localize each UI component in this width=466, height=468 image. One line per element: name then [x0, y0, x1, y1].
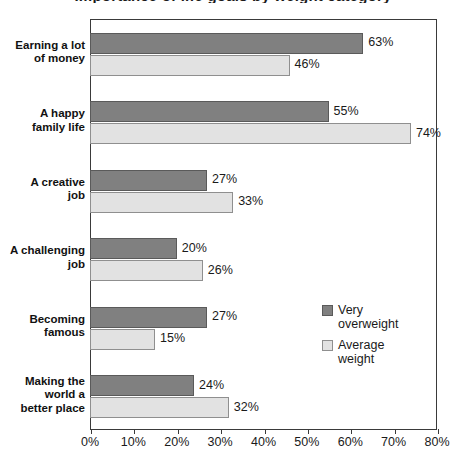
category-label-line: family life — [0, 121, 85, 135]
x-axis-tick-label: 30% — [208, 435, 233, 449]
legend-label-line1: Very — [338, 303, 363, 317]
legend-label-very-overweight: Very overweight — [338, 303, 398, 331]
category-label-line: better place — [0, 402, 85, 416]
bar-value-label: 15% — [160, 331, 185, 345]
bar-value-label: 26% — [208, 263, 233, 277]
bar-very-overweight-5[interactable] — [90, 375, 194, 396]
bar-value-label: 74% — [416, 126, 441, 140]
legend-swatch-icon-very-overweight — [322, 305, 333, 316]
legend-label-line1: Average — [338, 338, 384, 352]
legend-item-average-weight[interactable]: Average weight — [322, 338, 417, 366]
bar-very-overweight-0[interactable] — [90, 33, 363, 54]
x-axis-tick-label: 80% — [424, 435, 449, 449]
bar-value-label: 20% — [182, 241, 207, 255]
bar-very-overweight-4[interactable] — [90, 307, 207, 328]
x-axis-tick-mark — [308, 429, 309, 434]
bar-value-label: 63% — [368, 35, 393, 49]
x-axis-tick-label: 70% — [381, 435, 406, 449]
category-label-line: of money — [0, 52, 85, 66]
chart-title: Importance of life goals by weight categ… — [0, 0, 466, 3]
category-label-line: Making the — [0, 375, 85, 389]
bar-very-overweight-1[interactable] — [90, 101, 329, 122]
x-axis-tick-mark — [91, 429, 92, 434]
bar-average-weight-1[interactable] — [90, 123, 411, 144]
legend-label-line2: overweight — [338, 317, 398, 331]
bar-value-label: 27% — [212, 309, 237, 323]
x-axis-tick-label: 40% — [251, 435, 276, 449]
category-label-line: A challenging — [0, 244, 85, 258]
category-label-3: A challengingjob — [0, 244, 85, 271]
legend-item-very-overweight[interactable]: Very overweight — [322, 303, 417, 331]
category-label-line: Becoming — [0, 313, 85, 327]
bar-value-label: 33% — [238, 194, 263, 208]
x-axis-tick-mark — [221, 429, 222, 434]
bar-average-weight-0[interactable] — [90, 55, 290, 76]
x-axis-tick-label: 60% — [338, 435, 363, 449]
bar-average-weight-5[interactable] — [90, 397, 229, 418]
category-label-5: Making theworld abetter place — [0, 375, 85, 416]
category-label-0: Earning a lotof money — [0, 39, 85, 66]
category-label-line: job — [0, 258, 85, 272]
bar-value-label: 55% — [334, 104, 359, 118]
category-label-line: A creative — [0, 176, 85, 190]
category-label-line: world a — [0, 388, 85, 402]
x-axis-tick-mark — [438, 429, 439, 434]
category-label-line: job — [0, 189, 85, 203]
category-label-line: famous — [0, 326, 85, 340]
category-label-1: A happyfamily life — [0, 107, 85, 134]
x-axis-tick-mark — [395, 429, 396, 434]
bar-value-label: 46% — [295, 57, 320, 71]
x-axis-tick-label: 0% — [81, 435, 99, 449]
bar-average-weight-3[interactable] — [90, 260, 203, 281]
category-label-4: Becomingfamous — [0, 313, 85, 340]
x-axis-tick-mark — [351, 429, 352, 434]
category-label-line: Earning a lot — [0, 39, 85, 53]
legend-label-line2: weight — [338, 352, 374, 366]
bar-value-label: 27% — [212, 172, 237, 186]
legend-label-average-weight: Average weight — [338, 338, 384, 366]
x-axis-tick-label: 10% — [121, 435, 146, 449]
category-label-2: A creativejob — [0, 176, 85, 203]
legend-swatch-icon-average-weight — [322, 340, 333, 351]
x-axis-tick-mark — [134, 429, 135, 434]
bar-average-weight-2[interactable] — [90, 192, 233, 213]
x-axis-tick-mark — [265, 429, 266, 434]
category-label-line: A happy — [0, 107, 85, 121]
x-axis-tick-label: 20% — [164, 435, 189, 449]
x-axis-tick-mark — [178, 429, 179, 434]
bar-value-label: 24% — [199, 378, 224, 392]
chart-legend: Very overweight Average weight — [322, 303, 417, 373]
bar-very-overweight-2[interactable] — [90, 170, 207, 191]
bar-average-weight-4[interactable] — [90, 329, 155, 350]
bar-value-label: 32% — [234, 400, 259, 414]
bar-very-overweight-3[interactable] — [90, 238, 177, 259]
x-axis-tick-label: 50% — [294, 435, 319, 449]
bar-chart: Importance of life goals by weight categ… — [0, 0, 466, 468]
